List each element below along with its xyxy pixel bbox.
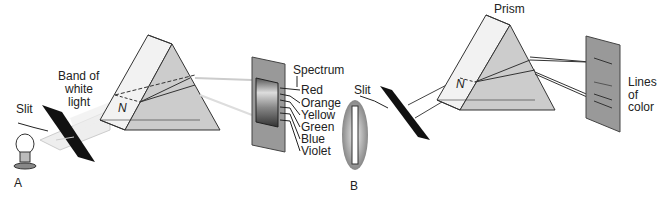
prism-diagram: Slit Band of white light N A Spectrum Re… — [0, 0, 665, 203]
slit-label-a: Slit — [16, 103, 33, 115]
panel-a-label: A — [14, 177, 22, 189]
lines-label-1: Lines — [628, 76, 657, 88]
light-bulb-icon — [14, 134, 36, 169]
color-label-red: Red — [301, 84, 323, 96]
prism-label: Prism — [494, 3, 525, 15]
panel-a — [14, 35, 300, 169]
normal-label-b: N — [456, 78, 465, 90]
discharge-tube-icon — [342, 100, 368, 170]
color-label-violet: Violet — [301, 145, 331, 157]
panel-b-label: B — [350, 180, 358, 192]
spectrum-label: Spectrum — [293, 64, 344, 76]
slit-label-b: Slit — [354, 84, 371, 96]
lines-label-3: color — [628, 101, 654, 113]
band-label-3: light — [68, 96, 90, 108]
normal-label-a: N — [118, 102, 127, 114]
band-label-1: Band of — [58, 70, 99, 82]
panel-b — [342, 15, 620, 170]
band-label-2: white — [65, 83, 93, 95]
